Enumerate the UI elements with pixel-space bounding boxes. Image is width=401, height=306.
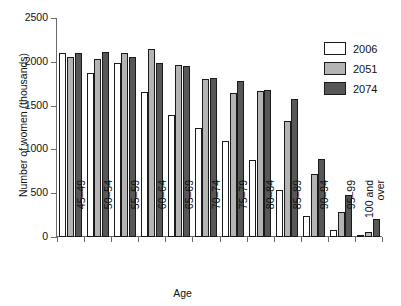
legend-swatch-icon	[324, 42, 346, 55]
x-tick-label: 60–64	[156, 180, 168, 244]
x-tick-label: 100 andover	[364, 180, 385, 244]
bar-2006-80–84	[249, 160, 256, 237]
bar-2051-75–79	[230, 93, 237, 237]
bar-2006-70–74	[195, 128, 202, 238]
legend-label: 2051	[353, 63, 377, 75]
x-tick-label: 95–99	[345, 180, 357, 244]
y-tick-label: 1500	[2, 100, 48, 111]
y-tick-label: 1000	[2, 143, 48, 154]
bar-2051-65–69	[175, 65, 182, 237]
x-tick-label: 80–84	[264, 180, 276, 244]
bar-2051-85–89	[284, 121, 291, 237]
x-tick-label: 45–49	[75, 180, 87, 244]
x-axis-title: Age	[0, 287, 401, 299]
bar-2006-50–54	[87, 73, 94, 237]
legend-item-2006: 2006	[324, 42, 377, 55]
bar-2051-90–94	[311, 174, 318, 237]
bar-2051-70–74	[202, 79, 209, 237]
bar-chart: Number of women (thousands) 050010001500…	[0, 0, 401, 306]
x-tick	[57, 237, 58, 242]
legend-label: 2074	[353, 83, 377, 95]
bar-2006-65–69	[168, 115, 175, 237]
chart-legend: 200620512074	[324, 42, 377, 95]
bar-2006-95–99	[330, 230, 337, 237]
legend-item-2074: 2074	[324, 82, 377, 95]
x-axis-title-text: Age	[173, 287, 192, 299]
x-tick-label: 50–54	[102, 180, 114, 244]
x-tick-label: 90–94	[318, 180, 330, 244]
legend-swatch-icon	[324, 82, 346, 95]
bar-2051-45–49	[67, 57, 74, 237]
bar-2051-55–59	[121, 53, 128, 237]
y-tick-label: 500	[2, 187, 48, 198]
bar-2006-55–59	[114, 63, 121, 237]
bar-2051-50–54	[94, 59, 101, 237]
y-tick-label: 2000	[2, 56, 48, 67]
legend-swatch-icon	[324, 62, 346, 75]
x-tick-label: 85–89	[291, 180, 303, 244]
bar-2051-95–99	[338, 212, 345, 237]
bar-2006-85–89	[276, 190, 283, 237]
bar-2006-45–49	[59, 53, 66, 237]
x-tick-label: 75–79	[237, 180, 249, 244]
x-tick-label: 55–59	[129, 180, 141, 244]
bar-2006-60–64	[141, 92, 148, 237]
x-tick-label: 70–74	[210, 180, 222, 244]
y-tick-label: 2500	[2, 12, 48, 23]
bar-2051-60–64	[148, 49, 155, 237]
bar-2051-80–84	[257, 91, 264, 237]
y-tick-label: 0	[2, 231, 48, 242]
x-tick-label: 65–69	[183, 180, 195, 244]
bar-2006-90–94	[303, 216, 310, 237]
legend-label: 2006	[353, 43, 377, 55]
bar-2006-75–79	[222, 141, 229, 237]
legend-item-2051: 2051	[324, 62, 377, 75]
